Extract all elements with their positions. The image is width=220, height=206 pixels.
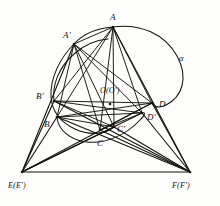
label-point-B-prime: B': [36, 92, 44, 101]
point-C: [99, 129, 102, 132]
label-curve-alpha: α: [179, 54, 184, 63]
point-Cprime: [113, 126, 116, 129]
label-point-B: B: [44, 120, 50, 129]
label-point-D: D: [159, 100, 166, 109]
line-A-Cprime: [113, 27, 114, 127]
point-D: [151, 102, 154, 105]
chord-lines: [54, 27, 152, 130]
label-point-F: F(F'): [172, 182, 190, 190]
line-A-Aprime: [74, 27, 113, 44]
label-point-C-prime: C': [117, 125, 125, 134]
label-point-O: O(O'): [100, 87, 120, 95]
line-E-Aprime: [22, 44, 74, 172]
point-F: [189, 171, 192, 174]
point-B: [56, 116, 59, 119]
figure-canvas: [0, 0, 220, 206]
point-A: [112, 26, 115, 29]
line-A-Dprime: [113, 27, 142, 113]
line-F-C: [100, 130, 190, 172]
label-point-A: A: [110, 13, 116, 22]
label-point-E: E(E'): [8, 182, 26, 190]
point-E: [21, 171, 24, 174]
label-point-D-prime: D': [147, 113, 156, 122]
point-Dprime: [141, 112, 144, 115]
label-point-A-prime: A': [63, 31, 71, 40]
line-F-A: [113, 27, 190, 172]
line-F-Bprime: [54, 101, 190, 172]
label-point-C: C: [97, 139, 103, 148]
line-A-B: [57, 27, 113, 117]
point-O: [109, 103, 112, 106]
point-Bprime: [53, 100, 56, 103]
point-Aprime: [73, 43, 76, 46]
geometry-figure: A A' B' B O(O') D D' C' C α E(E') F(F'): [0, 0, 220, 206]
line-B-Cprime: [57, 117, 114, 127]
